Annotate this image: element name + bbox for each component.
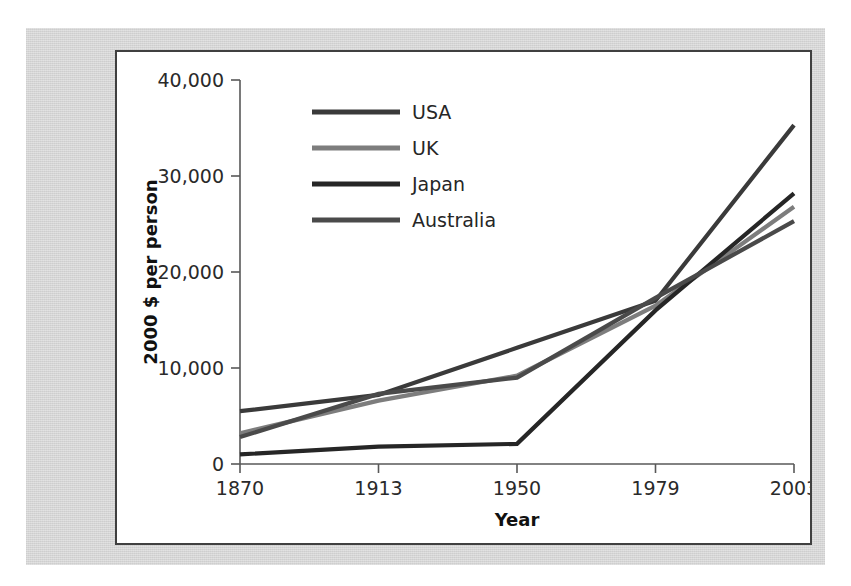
x-axis-tick-label: 1913 xyxy=(354,477,402,499)
y-axis-tick-label: 30,000 xyxy=(158,165,224,187)
legend-label-uk: UK xyxy=(412,137,439,159)
series-line-australia xyxy=(240,221,794,437)
y-axis-tick-label: 0 xyxy=(212,453,224,475)
chart-legend: USAUKJapanAustralia xyxy=(312,101,496,231)
y-axis-tick-label: 10,000 xyxy=(158,357,224,379)
y-axis-title: 2000 $ per person xyxy=(140,179,161,364)
page-root: of the world. For much of human history,… xyxy=(0,0,851,586)
y-axis-tick-label: 20,000 xyxy=(158,261,224,283)
x-axis-title: Year xyxy=(494,509,540,530)
line-chart: 010,00020,00030,00040,000187019131950197… xyxy=(117,52,810,543)
legend-label-usa: USA xyxy=(412,101,451,123)
x-axis-tick-label: 1979 xyxy=(631,477,679,499)
x-axis-tick-label: 1870 xyxy=(216,477,264,499)
x-axis-tick-label: 1950 xyxy=(493,477,541,499)
y-axis-tick-label: 40,000 xyxy=(158,69,224,91)
chart-series xyxy=(240,125,794,454)
legend-label-australia: Australia xyxy=(412,209,496,231)
x-axis-tick-label: 2003 xyxy=(770,477,810,499)
chart-axis-titles: Year2000 $ per person xyxy=(140,179,539,530)
chart-card: 010,00020,00030,00040,000187019131950197… xyxy=(115,50,812,545)
legend-label-japan: Japan xyxy=(411,173,465,195)
